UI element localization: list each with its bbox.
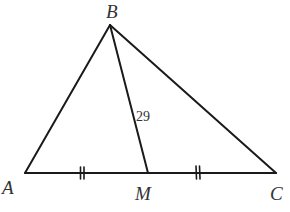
vertex-label-b: B	[106, 1, 118, 22]
segment-bc	[110, 25, 276, 173]
vertex-label-c: C	[270, 183, 283, 204]
segment-ab	[25, 25, 110, 173]
median-length-label: 29	[136, 109, 150, 124]
vertex-label-m: M	[134, 183, 152, 204]
segment-bm-median	[110, 25, 148, 173]
triangle-diagram: B A M C 29	[0, 0, 290, 212]
vertex-label-a: A	[0, 177, 14, 198]
